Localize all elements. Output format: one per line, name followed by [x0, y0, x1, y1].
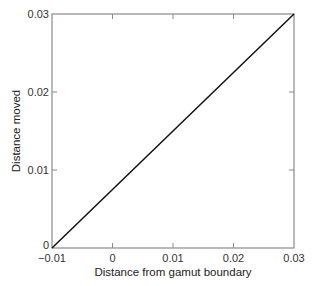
- y-tick-label: 0: [43, 239, 49, 251]
- y-axis: 00.010.020.03: [28, 8, 294, 251]
- x-tick-label: 0.01: [162, 252, 183, 264]
- x-tick-label: 0.03: [283, 252, 304, 264]
- x-tick-label: −0.01: [38, 252, 66, 264]
- y-tick-label: 0.01: [28, 164, 49, 176]
- data-line: [52, 14, 294, 248]
- chart: −0.0100.010.020.03 00.010.020.03 Distanc…: [0, 0, 313, 286]
- x-tick-label: 0.02: [223, 252, 244, 264]
- y-axis-title: Distance moved: [10, 90, 22, 172]
- x-axis: −0.0100.010.020.03: [38, 14, 305, 264]
- x-tick-label: 0: [109, 252, 115, 264]
- x-axis-title: Distance from gamut boundary: [94, 266, 251, 278]
- y-tick-label: 0.02: [28, 86, 49, 98]
- plot-area: [52, 14, 294, 248]
- y-tick-label: 0.03: [28, 8, 49, 20]
